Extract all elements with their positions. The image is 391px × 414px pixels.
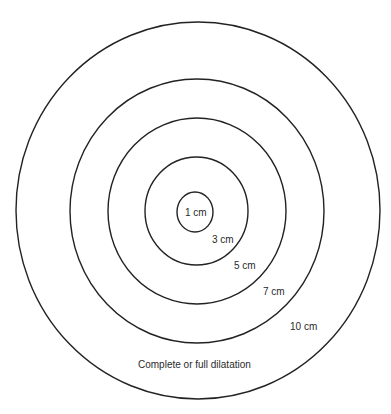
caption-complete-dilatation: Complete or full dilatation [138, 360, 251, 370]
dilatation-diagram: 1 cm 3 cm 5 cm 7 cm 10 cm Complete or fu… [0, 0, 391, 414]
label-3cm: 3 cm [212, 235, 234, 245]
label-1cm: 1 cm [185, 208, 207, 218]
label-5cm: 5 cm [234, 261, 256, 271]
label-10cm: 10 cm [290, 322, 317, 332]
label-7cm: 7 cm [263, 287, 285, 297]
